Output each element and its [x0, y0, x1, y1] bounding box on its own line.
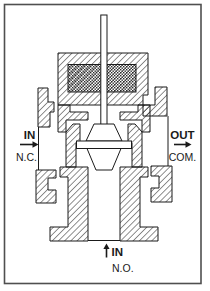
valve-diagram-canvas: IN N.C. OUT COM. IN N.O.: [0, 0, 210, 291]
right-port-label: OUT: [170, 129, 194, 141]
plunger-stem: [101, 15, 107, 126]
bottom-port-sub-label: N.O.: [112, 262, 134, 274]
valve-cross-section-figure: IN N.C. OUT COM. IN N.O.: [0, 0, 210, 291]
right-port-sub-label: COM.: [169, 151, 196, 163]
poppet-plate: [77, 141, 132, 149]
bottom-port-label: IN: [112, 246, 124, 258]
left-port-sub-label: N.C.: [16, 151, 37, 163]
left-port-label: IN: [24, 129, 36, 141]
